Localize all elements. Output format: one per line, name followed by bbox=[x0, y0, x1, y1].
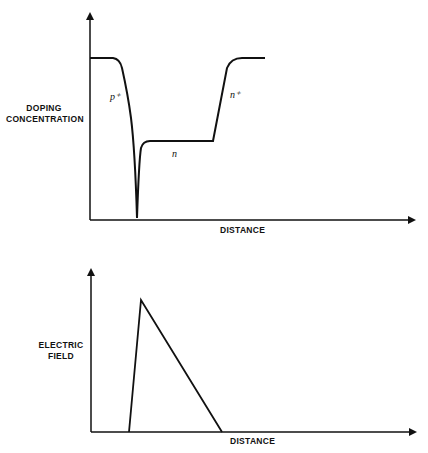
top-ylabel-line1: DOPING bbox=[6, 103, 82, 114]
region-label-n-plus: n⁺ bbox=[230, 89, 240, 100]
bottom-ylabel: ELECTRIC FIELD bbox=[36, 340, 86, 362]
electric-field-curve bbox=[129, 300, 222, 432]
diagram-canvas bbox=[0, 0, 428, 453]
bottom-ylabel-line2: FIELD bbox=[36, 351, 86, 362]
top-xlabel: DISTANCE bbox=[220, 225, 265, 236]
top-ylabel-line2: CONCENTRATION bbox=[6, 114, 82, 125]
top-ylabel: DOPING CONCENTRATION bbox=[6, 103, 82, 125]
doping-profile-curve bbox=[90, 58, 265, 218]
bottom-xlabel: DISTANCE bbox=[230, 436, 275, 447]
region-label-n: n bbox=[172, 148, 177, 159]
bottom-ylabel-line1: ELECTRIC bbox=[36, 340, 86, 351]
region-label-p-plus: p⁺ bbox=[110, 91, 120, 102]
bottom-axes bbox=[91, 270, 415, 432]
